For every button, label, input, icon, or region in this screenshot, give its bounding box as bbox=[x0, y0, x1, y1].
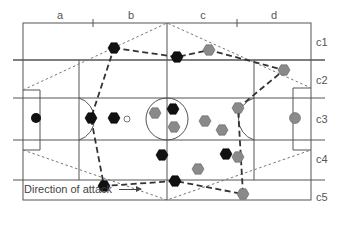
gray-player-icon bbox=[149, 108, 161, 118]
ball-icon bbox=[124, 116, 130, 122]
dark-player-icon bbox=[171, 52, 183, 62]
gray-player-icon bbox=[237, 189, 249, 199]
gray-player-icon bbox=[168, 122, 180, 132]
column-label-b: b bbox=[128, 10, 134, 21]
gray-player-icon bbox=[203, 45, 215, 55]
column-label-a: a bbox=[57, 10, 63, 21]
gray-player-icon bbox=[199, 116, 211, 126]
gray-goalkeeper-icon bbox=[290, 113, 301, 124]
row-label-c4: c4 bbox=[316, 154, 328, 165]
row-label-c2: c2 bbox=[316, 75, 328, 86]
row-label-c3: c3 bbox=[316, 114, 328, 125]
dark-player-icon bbox=[156, 150, 168, 160]
row-label-c5: c5 bbox=[316, 192, 328, 203]
dark-player-icon bbox=[108, 113, 120, 123]
players bbox=[31, 43, 301, 199]
dark-player-icon bbox=[169, 176, 181, 186]
pitch-diagram bbox=[0, 0, 339, 232]
dark-player-icon bbox=[85, 113, 97, 123]
right-arrow-icon bbox=[119, 189, 141, 190]
dark-player-icon bbox=[167, 104, 179, 114]
direction-label: Direction of attack bbox=[24, 183, 112, 195]
direction-of-attack: Direction of attack bbox=[24, 183, 141, 195]
gray-player-icon bbox=[232, 152, 244, 162]
column-label-c: c bbox=[200, 10, 206, 21]
gray-player-icon bbox=[278, 65, 290, 75]
gray-player-icon bbox=[216, 125, 228, 135]
dark-player-icon bbox=[220, 149, 232, 159]
column-label-d: d bbox=[271, 10, 277, 21]
gray-player-icon bbox=[192, 164, 204, 174]
dark-player-icon bbox=[108, 43, 120, 53]
row-label-c1: c1 bbox=[316, 37, 328, 48]
dark-goalkeeper-icon bbox=[31, 113, 41, 123]
gray-player-icon bbox=[232, 103, 244, 113]
